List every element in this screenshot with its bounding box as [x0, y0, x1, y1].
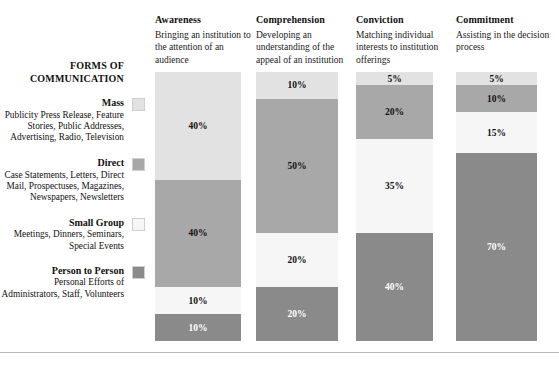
direct-swatch [132, 158, 145, 171]
bar-segment-label: 20% [288, 255, 307, 265]
legend-description-mass: Publicity Press Release, Feature Stories… [0, 110, 124, 144]
bar-segment[interactable]: 10% [155, 287, 241, 314]
bar-segment-label: 5% [489, 74, 503, 84]
person-to-person-swatch [132, 266, 145, 279]
column-header-commitment: Commitment Assisting in the decision pro… [456, 14, 556, 54]
legend-description-small-group: Meetings, Dinners, Seminars, Special Eve… [0, 229, 124, 252]
bar-segment-label: 20% [288, 309, 307, 319]
small-group-swatch [132, 218, 145, 231]
bar-segment-label: 15% [487, 128, 506, 138]
column-header-comprehension: Comprehension Developing an understandin… [256, 14, 356, 66]
bar-segment-label: 40% [189, 228, 208, 238]
legend-item-small-group[interactable]: Small Group Meetings, Dinners, Seminars,… [0, 217, 148, 252]
bar-segment-label: 35% [385, 181, 404, 191]
bar-segment[interactable]: 20% [256, 233, 338, 287]
bar-segment-label: 5% [387, 74, 401, 84]
bar-segment-label: 70% [487, 242, 506, 252]
legend-item-mass[interactable]: Mass Publicity Press Release, Feature St… [0, 97, 148, 143]
legend-label-small-group: Small Group [0, 217, 124, 229]
bar-segment[interactable]: 15% [456, 112, 537, 152]
bar-segment-label: 40% [385, 282, 404, 292]
forms-of-communication-panel: FORMS OF COMMUNICATION Mass Publicity Pr… [0, 60, 148, 300]
column-header-awareness: Awareness Bringing an institution to the… [155, 14, 253, 66]
column-description-comprehension: Developing an understanding of the appea… [256, 29, 356, 67]
column-title-awareness: Awareness [155, 14, 253, 27]
bar-segment[interactable]: 10% [256, 72, 338, 99]
bar-segment[interactable]: 10% [456, 85, 537, 112]
panel-title: FORMS OF COMMUNICATION [0, 60, 148, 85]
bar-segment[interactable]: 40% [155, 180, 241, 288]
bottom-divider [0, 352, 559, 353]
bar-column-awareness[interactable]: 40%40%10%10% [155, 72, 241, 341]
legend-label-direct: Direct [0, 157, 124, 169]
column-description-awareness: Bringing an institution to the attention… [155, 29, 253, 67]
bar-segment[interactable]: 20% [256, 287, 338, 341]
mass-swatch [132, 98, 145, 111]
bar-segment[interactable]: 40% [356, 233, 433, 341]
column-title-comprehension: Comprehension [256, 14, 356, 27]
bar-segment[interactable]: 20% [356, 85, 433, 139]
bar-segment-label: 20% [385, 107, 404, 117]
bar-segment[interactable]: 5% [456, 72, 537, 85]
bar-column-comprehension[interactable]: 10%50%20%20% [256, 72, 338, 341]
legend-item-direct[interactable]: Direct Case Statements, Letters, Direct … [0, 157, 148, 203]
column-title-commitment: Commitment [456, 14, 556, 27]
legend-label-mass: Mass [0, 97, 124, 109]
legend-description-person-to-person: Personal Efforts of Administrators, Staf… [0, 277, 124, 300]
bar-segment[interactable]: 10% [155, 314, 241, 341]
bar-segment[interactable]: 50% [256, 99, 338, 234]
bar-segment-label: 10% [288, 80, 307, 90]
column-header-conviction: Conviction Matching individual interests… [356, 14, 454, 66]
column-title-conviction: Conviction [356, 14, 454, 27]
legend-description-direct: Case Statements, Letters, Direct Mail, P… [0, 170, 124, 204]
bar-segment[interactable]: 5% [356, 72, 433, 85]
bar-column-commitment[interactable]: 5%10%15%70% [456, 72, 537, 341]
bar-segment-label: 40% [189, 121, 208, 131]
bar-segment[interactable]: 40% [155, 72, 241, 180]
column-description-commitment: Assisting in the decision process [456, 29, 556, 54]
bar-segment-label: 10% [189, 296, 208, 306]
legend-item-person-to-person[interactable]: Person to Person Personal Efforts of Adm… [0, 265, 148, 300]
bar-column-conviction[interactable]: 5%20%35%40% [356, 72, 433, 341]
bar-segment[interactable]: 70% [456, 153, 537, 341]
bar-segment[interactable]: 35% [356, 139, 433, 233]
bar-segment-label: 50% [288, 161, 307, 171]
legend-label-person-to-person: Person to Person [0, 265, 124, 277]
bar-segment-label: 10% [487, 94, 506, 104]
column-description-conviction: Matching individual interests to institu… [356, 29, 454, 67]
bar-segment-label: 10% [189, 323, 208, 333]
